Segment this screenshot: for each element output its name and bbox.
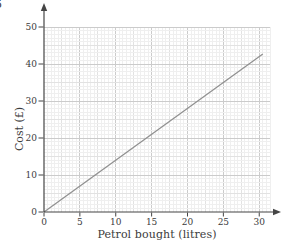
x-tick-label: 10 [110,217,122,227]
chart-plot-area: 05101520253001020304050 [0,0,284,250]
y-tick-label: 0 [31,207,37,217]
x-axis-title: Petrol bought (litres) [44,228,270,241]
y-tick-label: 10 [26,170,38,180]
x-tick-label: 30 [254,217,266,227]
x-tick-label: 5 [77,217,83,227]
y-tick-label: 50 [26,22,38,32]
petrol-cost-line [44,54,263,212]
x-tick-label: 15 [146,217,158,227]
x-tick-label: 25 [218,217,230,227]
x-tick-label: 0 [41,217,47,227]
y-tick-label: 40 [26,59,38,69]
y-axis-arrow-icon [41,3,47,11]
x-tick-label: 20 [182,217,194,227]
worksheet-page: 5 05101520253001020304050 Cost (£) Petro… [0,0,284,250]
y-axis-title: Cost (£) [13,107,26,151]
x-axis-arrow-icon [273,209,281,215]
y-tick-label: 20 [26,133,38,143]
y-tick-label: 30 [26,96,38,106]
